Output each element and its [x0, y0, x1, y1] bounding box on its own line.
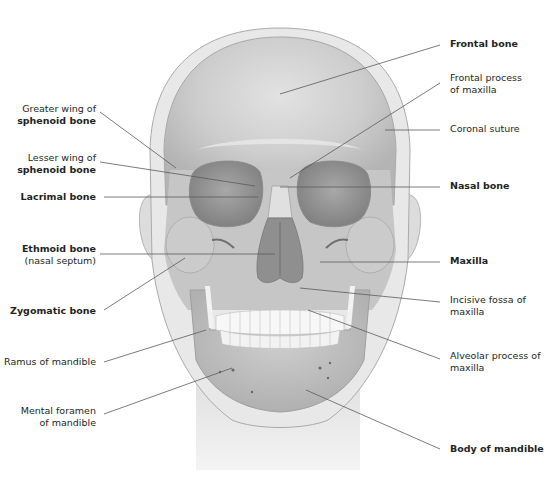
label-mental-foramen: Mental foramen of mandible — [21, 405, 96, 429]
label-maxilla: Maxilla — [450, 255, 488, 267]
label-coronal-suture: Coronal suture — [450, 123, 520, 135]
left-orbit — [189, 161, 262, 227]
label-ramus-of-mandible: Ramus of mandible — [4, 356, 96, 368]
label-frontal-bone: Frontal bone — [450, 38, 518, 50]
nasal-bone — [268, 186, 292, 218]
right-orbit — [297, 161, 370, 227]
label-greater-wing-sphenoid: Greater wing of sphenoid bone — [17, 103, 96, 127]
label-ethmoid-bone: Ethmoid bone (nasal septum) — [22, 243, 96, 267]
label-lacrimal-bone: Lacrimal bone — [21, 191, 96, 203]
label-incisive-fossa: Incisive fossa of maxilla — [450, 294, 526, 318]
teeth — [216, 309, 344, 349]
label-alveolar-process: Alveolar process of maxilla — [450, 350, 541, 374]
label-zygomatic-bone: Zygomatic bone — [10, 305, 96, 317]
label-lesser-wing-sphenoid: Lesser wing of sphenoid bone — [17, 152, 96, 176]
label-frontal-process-maxilla: Frontal process of maxilla — [450, 72, 522, 96]
label-body-of-mandible: Body of mandible — [450, 443, 544, 455]
label-nasal-bone: Nasal bone — [450, 180, 510, 192]
